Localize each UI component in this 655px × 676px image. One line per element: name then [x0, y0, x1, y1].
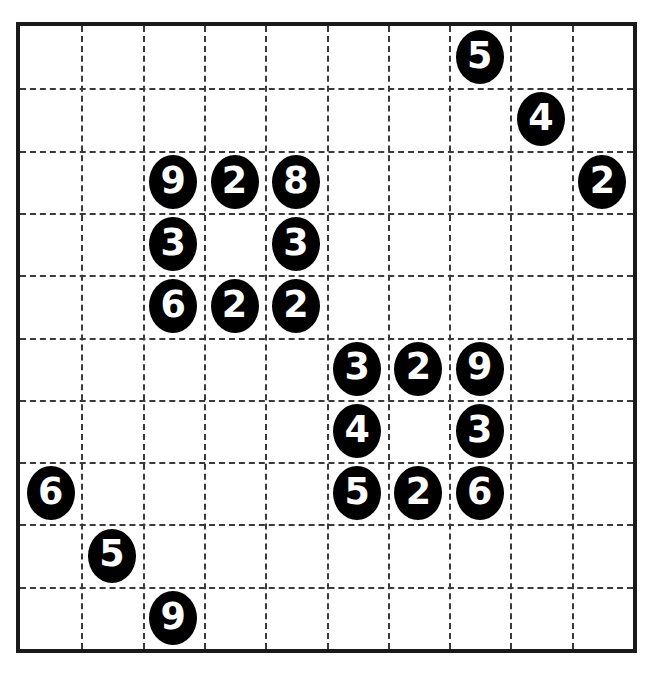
grid-cell-value: 3	[283, 225, 308, 261]
grid-cell-token[interactable]: 6	[149, 279, 197, 333]
grid-cell-value: 9	[161, 163, 186, 199]
grid-cell-token[interactable]: 8	[272, 155, 320, 209]
grid-cell-token[interactable]: 4	[517, 92, 565, 146]
grid-inner: 5492823362232943652659	[20, 26, 633, 649]
grid-cell-token[interactable]: 2	[394, 466, 442, 520]
grid-cell-token[interactable]: 9	[149, 591, 197, 645]
grid-cell-value: 3	[467, 412, 492, 448]
grid-cell-token[interactable]: 3	[456, 404, 504, 458]
puzzle-page: 5492823362232943652659	[0, 0, 655, 676]
grid-cell-token[interactable]: 2	[211, 279, 259, 333]
gridline-horizontal	[20, 462, 633, 464]
gridline-horizontal	[20, 400, 633, 402]
grid-cell-token[interactable]: 3	[149, 217, 197, 271]
grid-cell-value: 3	[344, 349, 369, 385]
grid-cell-value: 9	[161, 599, 186, 635]
gridline-horizontal	[20, 275, 633, 277]
grid-cell-value: 2	[283, 287, 308, 323]
grid-cell-token[interactable]: 2	[578, 155, 626, 209]
gridline-horizontal	[20, 88, 633, 90]
grid-cell-token[interactable]: 2	[394, 342, 442, 396]
gridline-horizontal	[20, 338, 633, 340]
grid-cell-token[interactable]: 2	[211, 155, 259, 209]
grid-cell-value: 2	[406, 474, 431, 510]
grid-cell-token[interactable]: 6	[456, 466, 504, 520]
grid-cell-value: 5	[99, 536, 124, 572]
grid-cell-token[interactable]: 6	[27, 466, 75, 520]
grid-cell-value: 6	[38, 474, 63, 510]
grid-cell-value: 3	[161, 225, 186, 261]
grid-cell-value: 5	[467, 38, 492, 74]
gridline-horizontal	[20, 524, 633, 526]
grid-cell-value: 2	[406, 349, 431, 385]
grid-cell-value: 4	[344, 412, 369, 448]
grid-cell-value: 6	[161, 287, 186, 323]
grid-cell-token[interactable]: 9	[456, 342, 504, 396]
grid-cell-token[interactable]: 2	[272, 279, 320, 333]
grid-cell-value: 2	[222, 287, 247, 323]
gridline-horizontal	[20, 151, 633, 153]
grid-cell-value: 5	[344, 474, 369, 510]
grid-cell-token[interactable]: 3	[333, 342, 381, 396]
grid-cell-token[interactable]: 5	[333, 466, 381, 520]
grid-cell-token[interactable]: 5	[456, 30, 504, 84]
gridline-horizontal	[20, 587, 633, 589]
grid-cell-value: 2	[222, 163, 247, 199]
grid-cell-token[interactable]: 5	[88, 529, 136, 583]
grid-cell-token[interactable]: 4	[333, 404, 381, 458]
grid-cell-value: 9	[467, 349, 492, 385]
grid-cell-value: 2	[590, 163, 615, 199]
puzzle-grid[interactable]: 5492823362232943652659	[16, 22, 637, 653]
grid-cell-token[interactable]: 3	[272, 217, 320, 271]
grid-cell-value: 8	[283, 163, 308, 199]
grid-cell-token[interactable]: 9	[149, 155, 197, 209]
grid-cell-value: 4	[528, 100, 553, 136]
grid-cell-value: 6	[467, 474, 492, 510]
gridline-horizontal	[20, 213, 633, 215]
